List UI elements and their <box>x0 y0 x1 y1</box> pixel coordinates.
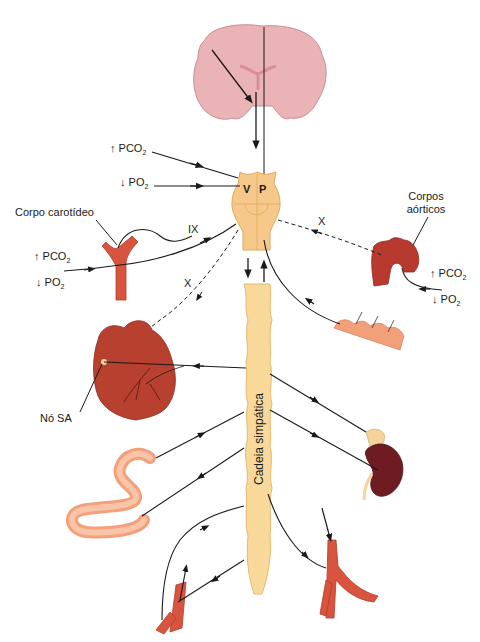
brainstem-illustration <box>232 172 280 250</box>
sympathetic-to-right-vessel <box>268 494 326 568</box>
intestine-illustration <box>72 454 150 533</box>
right-vessel-illustration <box>320 540 378 618</box>
aortic-pco2-label: ↑ PCO2 <box>430 267 466 281</box>
input-pco2-label: ↑ PCO2 <box>110 142 146 156</box>
nerve-ix-label: IX <box>188 223 199 235</box>
kidney-illustration <box>364 429 403 500</box>
heart-illustration <box>94 321 176 420</box>
skin-illustration <box>334 312 404 350</box>
brain-illustration <box>194 25 326 119</box>
carotid-pco2-label: ↑ PCO2 <box>34 250 70 264</box>
sympathetic-to-kidney <box>270 410 378 470</box>
sympathetic-chain-label: Cadeia simpática <box>252 393 266 485</box>
sa-node-label: Nó SA <box>40 412 72 424</box>
sympathetic-to-left-vessel-2 <box>178 560 244 602</box>
vagus-from-aortic <box>278 220 384 256</box>
aortic-body-label-2: aórticos <box>407 203 446 215</box>
aortic-po2-label: ↓ PO2 <box>432 293 460 307</box>
nerve-x-heart-label: X <box>184 277 192 289</box>
carotid-body-label: Corpo carotídeo <box>15 206 94 218</box>
cardiovascular-control-diagram: V P ↑ PCO2 ↓ PO2 Corpo carotídeo IX ↑ PC… <box>0 0 480 642</box>
sympathetic-to-adrenal <box>270 374 366 432</box>
carotid-artery-illustration <box>102 236 138 300</box>
aortic-arch-illustration <box>372 238 419 286</box>
skin-afferent <box>264 240 340 324</box>
input-po2-label: ↓ PO2 <box>120 176 148 190</box>
pressor-label: P <box>259 183 266 195</box>
carotid-po2-label: ↓ PO2 <box>36 276 64 290</box>
nerve-x-aortic-label: X <box>318 215 326 227</box>
vasomotor-label: V <box>243 183 251 195</box>
sympathetic-to-intestine-2 <box>142 448 244 516</box>
aortic-body-label-1: Corpos <box>408 190 444 202</box>
